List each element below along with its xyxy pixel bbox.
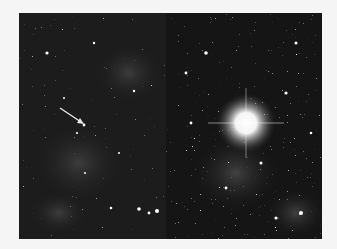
before-image-panel [19,13,166,239]
astronomy-figure [19,13,322,239]
star-field-before [19,13,166,239]
star-field-after [166,13,322,239]
after-image-panel [166,13,322,239]
